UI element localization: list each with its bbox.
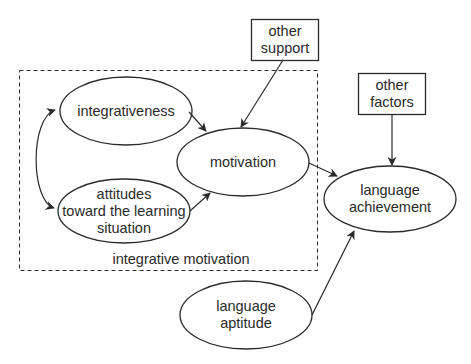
edge-integrativeness-attitudes (36, 110, 55, 208)
other-factors-label: other factors (370, 77, 414, 111)
language-aptitude-label: language aptitude (216, 298, 276, 332)
edge-integrativeness-motivation (189, 112, 206, 131)
integrativeness-label: integrativeness (77, 103, 175, 120)
attitudes-label: attitudes toward the learning situation (62, 186, 185, 237)
edge-attitudes-motivation (190, 193, 210, 211)
edge-motivation-achievement (309, 163, 337, 176)
motivation-label: motivation (210, 154, 276, 171)
integrative-motivation-label: integrative motivation (112, 251, 249, 268)
language-achievement-label: language achievement (349, 182, 431, 216)
edge-aptitude-achievement (312, 231, 354, 315)
other-support-label: other support (261, 23, 309, 57)
